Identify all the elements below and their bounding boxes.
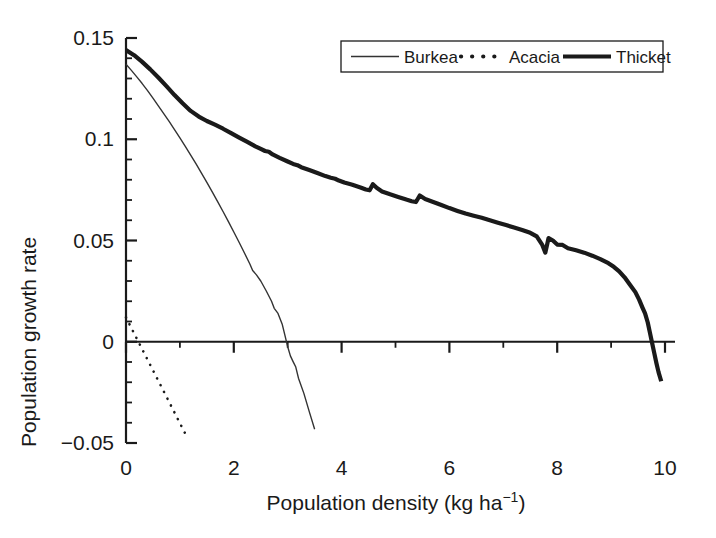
- x-axis-title: Population density (kg ha−1): [267, 489, 526, 514]
- x-tick-label: 6: [444, 456, 456, 479]
- chart-figure: −0.0500.050.10.150246810 BurkeaAcaciaThi…: [0, 0, 716, 538]
- y-tick-label: −0.05: [61, 431, 114, 454]
- x-tick-label: 0: [120, 456, 132, 479]
- chart-background: [0, 0, 716, 538]
- x-tick-label: 2: [228, 456, 240, 479]
- y-tick-label: 0: [102, 330, 114, 353]
- legend-label-thicket: Thicket: [616, 48, 671, 67]
- legend-label-burkea: Burkea: [404, 48, 458, 67]
- chart-legend[interactable]: BurkeaAcaciaThicket: [341, 41, 671, 72]
- x-tick-label: 8: [551, 456, 563, 479]
- legend-label-acacia: Acacia: [509, 48, 561, 67]
- y-tick-label: 0.15: [73, 26, 114, 49]
- y-tick-label: 0.05: [73, 229, 114, 252]
- y-tick-label: 0.1: [85, 127, 114, 150]
- x-tick-label: 4: [336, 456, 348, 479]
- y-axis-title: Population growth rate: [17, 237, 40, 447]
- x-tick-label: 10: [653, 456, 676, 479]
- population-growth-chart: −0.0500.050.10.150246810 BurkeaAcaciaThi…: [0, 0, 716, 538]
